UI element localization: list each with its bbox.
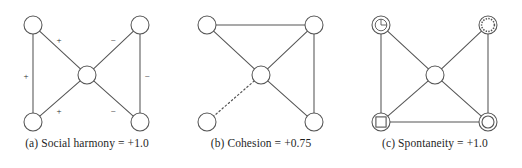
node-circle-center [426, 66, 444, 84]
edge-center-to-bottom-left [214, 81, 254, 116]
node-center [426, 66, 444, 84]
edge-sign-top-right-to-center: − [110, 35, 115, 45]
node-circle-bottom-left [198, 113, 216, 131]
node-circle-top-left [198, 16, 216, 34]
edge-sign-bottom-left-to-center: + [56, 106, 61, 116]
edge-top-right-to-center [442, 31, 482, 69]
node-center [252, 66, 270, 84]
edge-bottom-left-to-center [388, 81, 428, 116]
node-circle-bottom-right [305, 113, 323, 131]
panel-c-caption: (c) Spontaneity = +1.0 [348, 136, 522, 150]
node-circle-bottom-left [24, 113, 42, 131]
node-top-left [372, 16, 390, 34]
edge-bottom-right-to-center [442, 81, 482, 116]
node-bottom-right [131, 113, 149, 131]
edge-top-left-to-center [214, 31, 255, 69]
node-top-right [131, 16, 149, 34]
node-bottom-left [24, 113, 42, 131]
node-circle-center [78, 66, 96, 84]
node-circle-bottom-right [131, 113, 149, 131]
edge-sign-bottom-right-to-center: − [110, 106, 115, 116]
node-bottom-right [305, 113, 323, 131]
node-top-right [479, 16, 497, 34]
node-bottom-right [479, 113, 497, 131]
node-circle-top-right [131, 16, 149, 34]
panel-b: (b) Cohesion = +0.75 [174, 0, 348, 168]
panel-a-caption: (a) Social harmony = +1.0 [0, 136, 174, 150]
panel-c-graph [348, 0, 522, 136]
node-circle-center [252, 66, 270, 84]
node-top-left [24, 16, 42, 34]
node-top-right [305, 16, 323, 34]
edge-sign-top-left-to-bottom-left: + [23, 71, 28, 81]
node-bottom-left [198, 113, 216, 131]
panel-b-caption: (b) Cohesion = +0.75 [174, 136, 348, 150]
edge-center-to-bottom-right [268, 81, 308, 116]
edge-top-right-to-center [268, 31, 308, 69]
node-center [78, 66, 96, 84]
figure-root: +++−−− (a) Social harmony = +1.0 (b) Coh… [0, 0, 522, 168]
edge-sign-top-left-to-center: + [56, 35, 61, 45]
panel-c: (c) Spontaneity = +1.0 [348, 0, 522, 168]
panel-a: +++−−− (a) Social harmony = +1.0 [0, 0, 174, 168]
node-circle-top-left [24, 16, 42, 34]
panel-a-graph: +++−−− [0, 0, 174, 136]
node-top-left [198, 16, 216, 34]
panel-b-graph [174, 0, 348, 136]
edge-sign-top-right-to-bottom-right: − [144, 71, 149, 81]
edge-top-left-to-center [388, 31, 429, 69]
node-circle-top-right [305, 16, 323, 34]
node-circle-bottom-left [372, 113, 390, 131]
node-bottom-left [372, 113, 390, 131]
